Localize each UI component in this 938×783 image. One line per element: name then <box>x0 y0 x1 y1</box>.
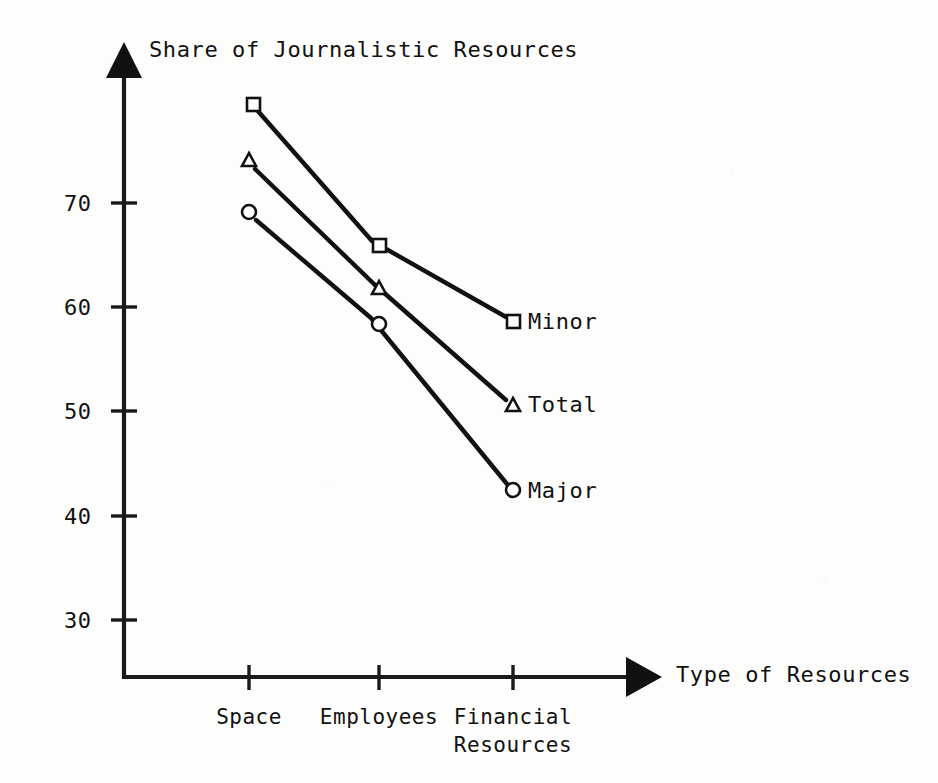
y-axis <box>106 42 142 679</box>
chart-page: 70 60 50 40 30 Share of Journalistic Res… <box>0 0 938 783</box>
line-chart-figure: 70 60 50 40 30 Share of Journalistic Res… <box>0 0 938 783</box>
series-total-point-space <box>242 153 256 166</box>
y-tick-label-70: 70 <box>64 191 92 216</box>
x-tick-label-space: Space <box>216 705 282 729</box>
series-major-point-employees <box>372 317 386 331</box>
series-minor-point-employees <box>373 239 386 252</box>
y-axis-tick-labels: 70 60 50 40 30 <box>64 191 92 633</box>
x-tick-label-financial: Financial <box>454 705 572 729</box>
x-tick-label-resources: Resources <box>454 733 572 757</box>
series-minor-point-financial <box>507 315 520 328</box>
x-axis-title: Type of Resources <box>676 662 911 687</box>
y-tick-label-40: 40 <box>64 504 92 529</box>
x-tick-label-employees: Employees <box>320 705 438 729</box>
x-axis <box>124 657 662 697</box>
series-label-total: Total <box>528 392 597 417</box>
y-tick-label-60: 60 <box>64 295 92 320</box>
series-major: Major <box>242 205 597 503</box>
series-major-line <box>256 220 507 484</box>
series-major-point-space <box>242 205 256 219</box>
y-tick-label-30: 30 <box>64 608 92 633</box>
y-tick-label-50: 50 <box>64 399 92 424</box>
series-label-minor: Minor <box>528 309 597 334</box>
series-label-major: Major <box>528 478 597 503</box>
y-axis-arrow-up-icon <box>106 42 142 78</box>
series-minor: Minor <box>247 98 597 334</box>
series-major-point-financial <box>506 483 520 497</box>
x-axis-arrow-right-icon <box>626 657 662 697</box>
series-minor-point-space <box>247 98 260 111</box>
chart-title: Share of Journalistic Resources <box>149 37 578 62</box>
x-axis-tick-labels: Space Employees Financial Resources <box>216 705 572 757</box>
